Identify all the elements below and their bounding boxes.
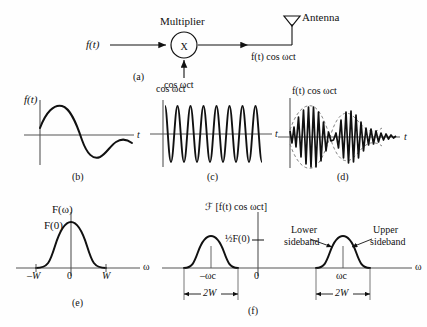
upper-sideband-label-line1: Upper xyxy=(373,225,398,235)
panel-f-neg-wc-label: –ωc xyxy=(200,271,216,281)
panel-e-peak-label: F(0) xyxy=(44,220,63,231)
panel-f-tag: (f) xyxy=(248,306,258,316)
panel-d-y-label: f(t) cos ωct xyxy=(292,86,337,96)
panel-a-multiplier-title: Multiplier xyxy=(160,16,205,27)
panel-c-tag: (c) xyxy=(207,172,218,182)
panel-e-tick-label-zero: 0 xyxy=(67,271,72,281)
lower-sideband-label-line2: sideband xyxy=(284,237,320,247)
panel-d-plot xyxy=(278,98,400,168)
panel-f-width-label-left: 2W xyxy=(203,288,216,298)
panel-b-x-label: t xyxy=(137,130,140,140)
upper-sideband-pointer xyxy=(352,239,372,247)
panel-d-tag: (d) xyxy=(337,172,349,182)
panel-f-pos-wc-label: ωc xyxy=(336,271,347,281)
panel-f-y-label: ℱ [f(t) cos ωct] xyxy=(205,202,267,212)
panel-e-tick-label-minus-w: –W xyxy=(27,271,40,281)
panel-a-output-label: f(t) cos ωct xyxy=(251,52,296,62)
panel-c-top-label: cos ωct xyxy=(156,84,186,94)
panel-a-input-label: f(t) xyxy=(86,39,99,50)
panel-e-tag: (e) xyxy=(72,298,83,308)
panel-e-tick-label-w: W xyxy=(102,271,110,281)
panel-f-origin-tick-label: 0 xyxy=(254,271,259,281)
panel-a-antenna-label: Antenna xyxy=(302,12,339,23)
panel-c-plot xyxy=(150,100,272,167)
lower-sideband-label-line1: Lower xyxy=(291,225,317,235)
panel-e-plot xyxy=(16,212,140,276)
panel-e-x-label: ω xyxy=(143,262,150,272)
panel-b-y-label: f(t) xyxy=(24,94,37,105)
panel-f-peak-label: ½F(0) xyxy=(225,234,250,244)
panel-e-y-label: F(ω) xyxy=(52,204,73,215)
upper-sideband-label-line2: sideband xyxy=(370,237,406,247)
panel-b-waveform xyxy=(40,106,132,158)
panel-b-plot xyxy=(24,100,134,165)
panel-b-tag: (b) xyxy=(72,172,84,182)
multiplier-symbol-x: X xyxy=(180,41,188,52)
panel-f-width-label-right: 2W xyxy=(335,288,348,298)
panel-f-x-label: ω xyxy=(415,262,422,272)
panel-c-x-label: t xyxy=(275,129,278,139)
panel-d-x-label: t xyxy=(404,132,407,142)
panel-a-block-diagram: X xyxy=(110,16,300,78)
panel-a-tag: (a) xyxy=(133,72,144,82)
